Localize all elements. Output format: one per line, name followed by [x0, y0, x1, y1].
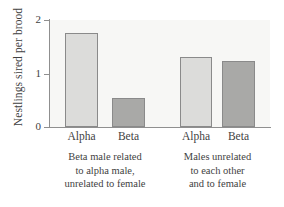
bar-group2-alpha — [180, 57, 212, 127]
group-caption-1-line-1: Beta male related — [45, 150, 165, 164]
group-caption-1-line-2: to alpha male, — [45, 164, 165, 178]
y-tick-label-2: 2 — [17, 14, 41, 25]
group-caption-2-line-2: to each other — [158, 164, 278, 178]
group-caption-1-line-3: unrelated to female — [45, 177, 165, 191]
y-axis-title: Nestlings sired per brood — [12, 8, 24, 126]
x-tick-label-group2-beta: Beta — [216, 130, 261, 143]
x-tick-label-group1-beta: Beta — [106, 130, 151, 143]
bar-group1-beta — [112, 98, 145, 127]
bar-group2-beta — [222, 61, 255, 127]
bar-chart-figure: Nestlings sired per brood 2 1 0 Alpha Be… — [0, 0, 284, 207]
bar-group1-alpha — [65, 33, 98, 127]
group-caption-1: Beta male related to alpha male, unrelat… — [45, 150, 165, 191]
group-caption-2: Males unrelated to each other and to fem… — [158, 150, 278, 191]
x-tick-label-group1-alpha: Alpha — [59, 130, 104, 143]
y-tick-mark-1 — [44, 74, 50, 75]
y-tick-mark-2 — [44, 20, 50, 21]
group-caption-2-line-1: Males unrelated — [158, 150, 278, 164]
group-caption-2-line-3: and to female — [158, 177, 278, 191]
y-tick-label-0: 0 — [17, 121, 41, 132]
y-tick-mark-0 — [44, 127, 50, 128]
plot-area — [50, 20, 270, 127]
y-tick-label-1: 1 — [17, 68, 41, 79]
x-axis-line — [49, 127, 271, 128]
x-tick-label-group2-alpha: Alpha — [174, 130, 218, 143]
